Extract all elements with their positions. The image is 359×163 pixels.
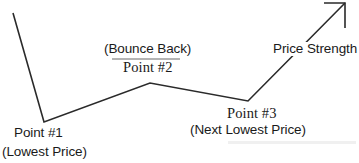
label-next-lowest-price: (Next Lowest Price)	[190, 123, 306, 137]
label-lowest-price: (Lowest Price)	[2, 145, 87, 159]
price-strength-diagram: Point #1 (Lowest Price) (Bounce Back) Po…	[0, 0, 359, 163]
label-price-strength: Price Strength	[272, 42, 358, 56]
label-point-3: Point #3	[227, 106, 277, 121]
label-point-1: Point #1	[14, 126, 63, 140]
price-polyline	[13, 3, 345, 122]
label-bounce-back: (Bounce Back)	[104, 42, 191, 56]
scan-artifact	[228, 141, 356, 144]
label-point-2: Point #2	[123, 60, 173, 75]
